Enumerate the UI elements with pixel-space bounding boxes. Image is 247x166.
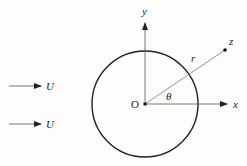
flow-label-top: U [46,80,55,92]
point-z-label: z [228,35,234,47]
radius-line [145,50,225,104]
y-axis-label: y [141,5,147,17]
origin-label: O [131,98,139,110]
radius-label: r [191,52,196,64]
x-axis-label: x [232,98,238,110]
diagram-svg: y x z r θ O U U [0,0,247,166]
flow-label-bottom: U [46,118,55,130]
point-z-dot [223,48,227,52]
origin-dot [144,103,147,106]
angle-theta-label: θ [166,90,172,102]
cylinder-flow-diagram: y x z r θ O U U [0,0,247,166]
